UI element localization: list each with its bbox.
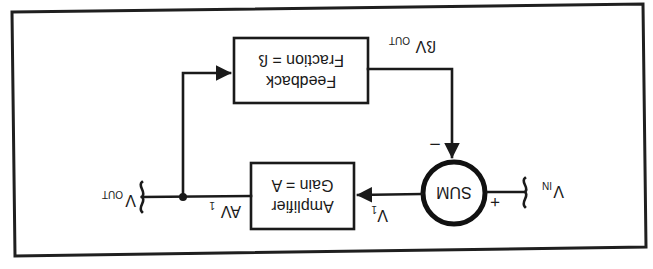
vin-sub: IN [542,180,552,191]
vout-terminal-brace [141,182,144,212]
wire-vout-to-feedback [183,73,230,197]
av1-sub: 1 [209,200,215,211]
minus-sign: – [430,136,440,155]
feedback-line2: Fraction = ß [258,52,344,69]
vout-sub: OUT [102,189,123,200]
wire-amplifier-to-vout [142,196,251,197]
amplifier-line2: Gain = A [271,177,333,194]
beta-vout-label: ßV OUT [389,35,436,55]
vout-label: V OUT [102,189,136,209]
vout-main: V [125,192,136,209]
av1-label: AV 1 [209,200,241,220]
v1-label: V 1 [371,204,388,224]
feedback-line1: Feedback [265,73,336,90]
beta-vout-sub: OUT [389,35,410,46]
vin-main: V [553,183,564,200]
feedback-amplifier-diagram: Feedback Fraction = ß Amplifier Gain = A… [0,0,653,269]
vin-label: V IN [542,180,564,200]
feedback-block: Feedback Fraction = ß [234,38,368,103]
av1-main: AV [221,203,241,220]
sum-label: SUM [436,184,472,201]
v1-sub: 1 [371,204,377,215]
junction-dot [179,193,187,201]
amplifier-block: Amplifier Gain = A [251,163,354,229]
amplifier-line1: Amplifier [271,198,334,215]
v1-main: V [377,207,388,224]
wire-sum-to-amplifier [358,194,422,195]
sum-junction: SUM [423,162,485,224]
plus-sign: + [490,193,500,212]
beta-vout-main: ßV [415,38,436,55]
diagram-canvas: Feedback Fraction = ß Amplifier Gain = A… [0,0,653,269]
vin-terminal-brace [524,178,527,207]
